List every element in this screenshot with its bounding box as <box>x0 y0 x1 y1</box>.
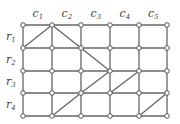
grid-node <box>79 23 84 28</box>
grid-node <box>50 91 55 96</box>
grid-node <box>50 69 55 74</box>
grid-node <box>21 23 26 28</box>
grid-node <box>137 23 142 28</box>
grid-graph-diagram: c1c2c3c4c5 r1r2r3r4 <box>0 0 180 124</box>
grid-node <box>108 23 113 28</box>
grid-node <box>21 91 26 96</box>
row-labels: r1r2r3r4 <box>6 30 16 112</box>
diagonal-edge <box>23 25 52 48</box>
row-label: r1 <box>6 30 16 44</box>
row-label: r4 <box>6 98 16 112</box>
column-label: c3 <box>91 7 102 21</box>
grid-node <box>79 46 84 51</box>
grid-node <box>137 114 142 119</box>
grid-node <box>108 114 113 119</box>
grid-node <box>50 46 55 51</box>
row-label: r2 <box>6 53 16 67</box>
diagonal-edge <box>81 71 110 93</box>
diagonal-edge <box>52 93 81 116</box>
column-label: c4 <box>120 7 131 21</box>
grid-node <box>21 114 26 119</box>
column-label: c5 <box>148 7 159 21</box>
grid-node <box>79 114 84 119</box>
column-labels: c1c2c3c4c5 <box>33 7 160 21</box>
grid-node <box>21 69 26 74</box>
grid-node <box>79 69 84 74</box>
grid-node <box>50 114 55 119</box>
grid-node <box>165 46 170 51</box>
grid-node <box>165 114 170 119</box>
row-label: r3 <box>6 75 16 89</box>
grid-node <box>108 46 113 51</box>
diagonal-edge <box>139 93 167 116</box>
grid-node <box>137 46 142 51</box>
grid-node <box>79 91 84 96</box>
grid-node <box>165 91 170 96</box>
grid-node <box>165 23 170 28</box>
grid-node <box>137 69 142 74</box>
grid-node <box>108 69 113 74</box>
column-label: c2 <box>62 7 73 21</box>
grid-node <box>165 69 170 74</box>
grid-node <box>21 46 26 51</box>
grid-edges <box>23 25 167 116</box>
diagonal-edge <box>110 71 139 93</box>
diagonal-edge <box>52 25 81 48</box>
grid-node <box>137 91 142 96</box>
diagonal-edge <box>81 48 110 71</box>
column-label: c1 <box>33 7 44 21</box>
grid-node <box>108 91 113 96</box>
grid-node <box>50 23 55 28</box>
